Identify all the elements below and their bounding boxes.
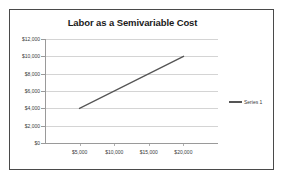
y-axis-tick-label: $6,000 [25, 88, 40, 94]
plot-area: $12,000$10,000$8,000$6,000$4,000$2,000$0… [45, 39, 218, 143]
legend-entry-label: Series 1 [244, 99, 262, 105]
y-axis-tick-label: $4,000 [25, 105, 40, 111]
y-axis-tick-label: $2,000 [25, 123, 40, 129]
series-plot-line [45, 39, 218, 143]
chart-title: Labor as a Semivariable Cost [40, 17, 225, 28]
x-axis-tick-label: $10,000 [105, 149, 123, 155]
y-axis-tick-label: $10,000 [22, 53, 40, 59]
x-axis-tick-label: $20,000 [174, 149, 192, 155]
y-axis-tick-label: $12,000 [22, 36, 40, 42]
x-axis-tick-label: $15,000 [140, 149, 158, 155]
y-axis-tick-label: $8,000 [25, 71, 40, 77]
x-axis-tick-label: $5,000 [72, 149, 87, 155]
chart-legend: Series 1 [229, 99, 262, 105]
chart-container: Labor as a Semivariable Cost $12,000$10,… [9, 9, 274, 170]
legend-line-marker-icon [229, 101, 242, 103]
x-axis-line [45, 143, 218, 144]
y-axis-tick-label: $0 [34, 140, 40, 146]
